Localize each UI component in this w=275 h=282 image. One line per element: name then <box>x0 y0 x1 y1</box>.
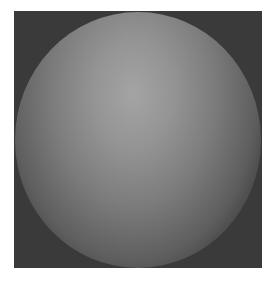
image-frame <box>14 11 262 268</box>
shaded-sphere <box>15 12 261 268</box>
